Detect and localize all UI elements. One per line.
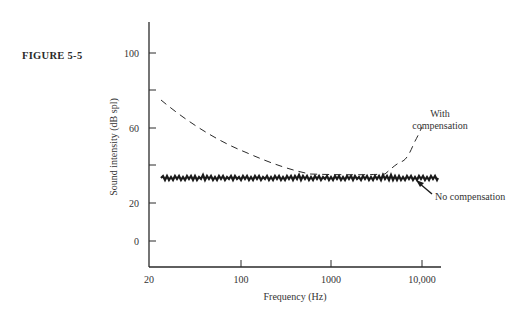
y-tick-100: 100 (124, 48, 139, 59)
y-tick-20: 20 (129, 198, 139, 209)
x-tick-1000: 1000 (321, 274, 341, 285)
x-tick-10000: 10,000 (408, 274, 436, 285)
with-compensation-series (161, 100, 422, 175)
x-axis (149, 260, 441, 267)
no-compensation-series (161, 175, 438, 180)
x-tick-20: 20 (144, 274, 154, 285)
arrow-icon (416, 180, 432, 194)
x-axis-title: Frequency (Hz) (263, 291, 326, 303)
y-tick-0: 0 (134, 236, 139, 247)
y-axis (149, 22, 156, 267)
y-axis-title: Sound intensity (dB spl) (108, 98, 120, 196)
chart: 100 60 20 0 20 100 1000 10,000 Frequency… (0, 0, 527, 316)
no-compensation-label: No compensation (435, 191, 505, 202)
x-tick-100: 100 (234, 274, 249, 285)
y-tick-60: 60 (129, 123, 139, 134)
with-compensation-label-line2: compensation (412, 120, 468, 131)
with-compensation-label-line1: With (430, 108, 450, 119)
